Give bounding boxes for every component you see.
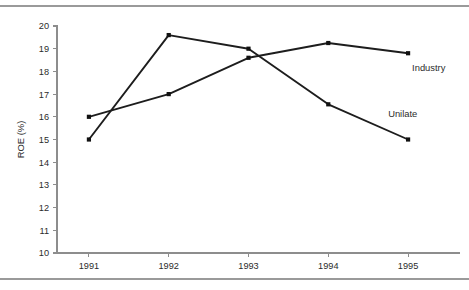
x-axis-ticks: 19911992199319941995 (79, 253, 419, 271)
chart-figure: 1011121314151617181920 19911992199319941… (0, 0, 469, 290)
data-point-industry-1991 (87, 115, 91, 119)
y-tick-label-13: 13 (39, 180, 49, 190)
y-tick-label-11: 11 (39, 226, 49, 236)
y-axis-group: 1011121314151617181920 (39, 21, 57, 258)
y-tick-label-14: 14 (39, 158, 49, 168)
series-inline-labels: IndustryUnilate (388, 62, 446, 118)
y-tick-label-20: 20 (39, 21, 49, 31)
data-point-unilate-1991 (87, 137, 91, 141)
y-tick-label-17: 17 (39, 90, 49, 100)
y-axis-ticks: 1011121314151617181920 (39, 21, 57, 258)
x-tick-label-1991: 1991 (79, 261, 99, 271)
series-label-unilate: Unilate (388, 108, 417, 119)
line-chart-plot: 1011121314151617181920 19911992199319941… (0, 0, 469, 290)
x-tick-label-1994: 1994 (318, 261, 338, 271)
data-point-unilate-1993 (246, 47, 250, 51)
data-point-industry-1993 (246, 56, 250, 60)
y-tick-label-19: 19 (39, 44, 49, 54)
y-tick-label-18: 18 (39, 67, 49, 77)
y-tick-label-12: 12 (39, 203, 49, 213)
data-point-industry-1994 (326, 41, 330, 45)
y-tick-label-16: 16 (39, 112, 49, 122)
data-series-group (87, 33, 410, 142)
y-tick-label-10: 10 (39, 248, 49, 258)
series-line-industry (89, 43, 408, 117)
data-point-unilate-1992 (167, 33, 171, 37)
data-point-unilate-1995 (406, 137, 410, 141)
x-axis-group: 19911992199319941995 (57, 253, 460, 271)
data-point-industry-1995 (406, 51, 410, 55)
x-tick-label-1992: 1992 (158, 261, 178, 271)
y-axis-title: ROE (%) (15, 121, 26, 159)
y-tick-label-15: 15 (39, 135, 49, 145)
data-point-industry-1992 (167, 92, 171, 96)
x-tick-label-1993: 1993 (238, 261, 258, 271)
data-point-unilate-1994 (326, 102, 330, 106)
series-label-industry: Industry (412, 62, 446, 73)
x-tick-label-1995: 1995 (398, 261, 418, 271)
